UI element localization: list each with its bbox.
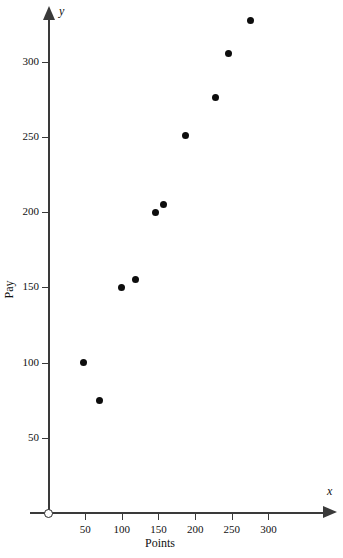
y-axis-tick-label: 200 <box>9 205 39 217</box>
y-axis-line <box>48 18 50 513</box>
x-axis-tick-label: 200 <box>178 523 212 535</box>
data-point <box>212 94 219 101</box>
data-point <box>247 17 254 24</box>
y-axis-tick-label: 300 <box>9 55 39 67</box>
y-axis-tick-label: 250 <box>9 130 39 142</box>
x-axis-arrow-icon <box>323 506 337 518</box>
x-axis-tick-label: 100 <box>105 523 139 535</box>
data-point <box>225 50 232 57</box>
y-axis-tick <box>42 212 48 213</box>
x-axis-tick <box>85 514 86 520</box>
data-point <box>118 284 125 291</box>
x-axis-tick-label: 150 <box>141 523 175 535</box>
y-axis-variable-label: y <box>59 4 64 19</box>
y-axis-tick-label: 50 <box>9 431 39 443</box>
data-point <box>160 201 167 208</box>
y-axis-tick-label: 100 <box>9 356 39 368</box>
x-axis-title: Points <box>110 536 210 551</box>
x-axis-tick <box>122 514 123 520</box>
y-axis-tick <box>42 287 48 288</box>
x-axis-tick <box>195 514 196 520</box>
y-axis-tick <box>42 62 48 63</box>
data-point <box>132 276 139 283</box>
data-point <box>182 132 189 139</box>
data-point <box>96 397 103 404</box>
y-axis-title: Pay <box>2 265 17 315</box>
x-axis-variable-label: x <box>327 484 332 499</box>
x-axis-tick-label: 300 <box>251 523 285 535</box>
y-axis-tick <box>42 363 48 364</box>
origin-marker-icon <box>44 509 53 518</box>
x-axis-tick <box>232 514 233 520</box>
data-point <box>80 359 87 366</box>
x-axis-tick-label: 250 <box>215 523 249 535</box>
x-axis-tick <box>158 514 159 520</box>
x-axis-tick <box>268 514 269 520</box>
y-axis-tick <box>42 137 48 138</box>
data-point <box>152 209 159 216</box>
y-axis-tick <box>42 438 48 439</box>
x-axis-tick-label: 50 <box>68 523 102 535</box>
y-axis-arrow-icon <box>43 6 55 20</box>
x-axis-line <box>30 512 325 514</box>
scatter-plot-figure: y x 50100150200250300 50100150200250300 … <box>0 0 343 558</box>
